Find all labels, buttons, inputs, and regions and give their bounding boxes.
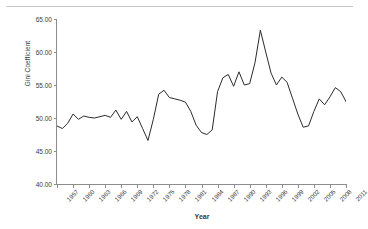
x-tick-label: 1972: [145, 188, 160, 203]
y-tick-label: 45.00: [6, 148, 52, 155]
top-divider: [6, 6, 353, 7]
x-tick-mark: [250, 185, 251, 188]
x-tick-mark: [137, 185, 138, 188]
x-tick-label: 1993: [258, 188, 273, 203]
line-series-gini: [57, 30, 346, 140]
x-tick-label: 1999: [290, 188, 305, 203]
x-tick-mark: [330, 185, 331, 188]
x-axis-title: Year: [57, 213, 347, 220]
x-tick-mark: [153, 185, 154, 188]
x-tick-mark: [282, 185, 283, 188]
x-tick-mark: [266, 185, 267, 188]
x-tick-mark: [298, 185, 299, 188]
y-axis-title: Gini Coefficient: [24, 9, 31, 119]
x-tick-label: 2005: [322, 188, 337, 203]
x-tick-label: 1969: [129, 188, 144, 203]
x-tick-label: 2008: [338, 188, 353, 203]
x-tick-mark: [169, 185, 170, 188]
y-tick-label: 65.00: [6, 16, 52, 23]
x-tick-mark: [314, 185, 315, 188]
x-tick-label: 1990: [242, 188, 257, 203]
x-tick-mark: [185, 185, 186, 188]
x-tick-label: 1984: [210, 188, 225, 203]
x-tick-label: 1978: [177, 188, 192, 203]
x-tick-mark: [89, 185, 90, 188]
x-tick-mark: [57, 185, 58, 188]
x-tick-label: 2002: [306, 188, 321, 203]
x-tick-mark: [121, 185, 122, 188]
x-tick-label: 2011: [354, 188, 368, 202]
x-tick-mark: [73, 185, 74, 188]
x-tick-label: 1987: [226, 188, 241, 203]
plot-area: [57, 19, 346, 184]
x-tick-label: 1981: [193, 188, 208, 203]
x-tick-mark: [346, 185, 347, 188]
y-tick-label: 55.00: [6, 82, 52, 89]
x-tick-mark: [202, 185, 203, 188]
x-tick-label: 1975: [161, 188, 176, 203]
x-tick-mark: [218, 185, 219, 188]
x-tick-label: 1963: [97, 188, 112, 203]
y-tick-label: 50.00: [6, 115, 52, 122]
x-tick-label: 1996: [274, 188, 289, 203]
x-tick-mark: [105, 185, 106, 188]
x-tick-label: 1957: [65, 188, 80, 203]
y-tick-label: 60.00: [6, 49, 52, 56]
x-tick-label: 1960: [81, 188, 96, 203]
y-tick-label: 40.00: [6, 181, 52, 188]
x-tick-label: 1966: [113, 188, 128, 203]
x-tick-mark: [234, 185, 235, 188]
